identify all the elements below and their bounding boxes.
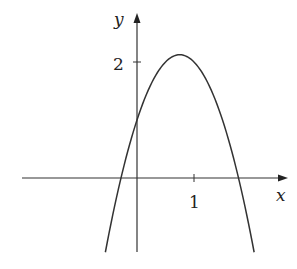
y-axis-label: y bbox=[113, 9, 124, 29]
y-axis-arrow-icon bbox=[134, 13, 141, 23]
x-axis-label: x bbox=[276, 185, 286, 205]
parabola-curve bbox=[105, 55, 254, 252]
graph-canvas: y x 1 2 bbox=[0, 0, 297, 269]
y-tick-label-2: 2 bbox=[113, 54, 124, 74]
x-axis-arrow-icon bbox=[278, 175, 288, 182]
x-tick-label-1: 1 bbox=[189, 192, 200, 212]
